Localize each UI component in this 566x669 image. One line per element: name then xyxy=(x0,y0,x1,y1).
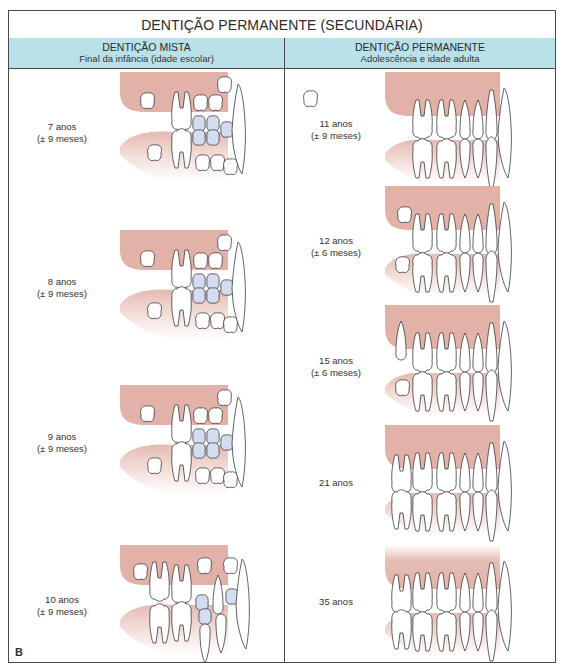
dentition-illustrations xyxy=(0,0,566,669)
arch-15-years xyxy=(385,305,511,421)
arch-9-years xyxy=(120,385,245,495)
arch-11-years xyxy=(304,72,512,188)
arch-35-years xyxy=(385,545,511,661)
arch-8-years xyxy=(120,230,245,340)
arch-10-years xyxy=(120,545,249,663)
arch-21-years xyxy=(385,425,511,541)
arch-7-years xyxy=(120,72,245,182)
arch-12-years xyxy=(385,186,511,302)
